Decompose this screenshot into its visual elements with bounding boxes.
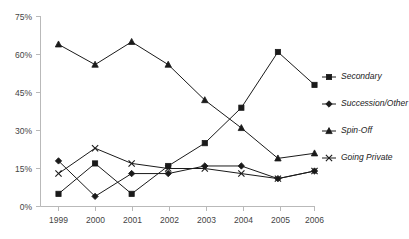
x-tick-label: 2002 — [160, 215, 179, 225]
legend-label: Going Private — [341, 152, 393, 162]
chart-container: 75% 60% 45% 30% 15% 0% 1999 2000 2001 20… — [0, 0, 409, 239]
data-point-triangle — [55, 41, 61, 47]
data-point-square — [326, 74, 331, 79]
data-point-x — [92, 145, 98, 151]
y-tick-label: 45% — [15, 88, 32, 98]
data-point-triangle — [165, 61, 171, 67]
legend-label: Spin-Off — [341, 125, 374, 135]
x-axis-tick-labels: 1999 2000 2001 2002 2003 2004 2005 2006 — [49, 215, 324, 225]
chart-legend: SecondarySuccession/OtherSpin-OffGoing P… — [322, 71, 409, 162]
x-tick-label: 2001 — [123, 215, 142, 225]
y-tick-label: 75% — [15, 12, 32, 22]
data-point-triangle — [238, 125, 244, 131]
line-chart: 75% 60% 45% 30% 15% 0% 1999 2000 2001 20… — [0, 0, 409, 239]
series-layer — [55, 38, 317, 199]
x-tick-label: 2006 — [305, 215, 324, 225]
legend-item-spin-off: Spin-Off — [322, 125, 374, 135]
series-secondary — [56, 49, 317, 196]
y-axis-tick-labels: 75% 60% 45% 30% 15% 0% — [15, 12, 32, 212]
data-point-triangle — [128, 38, 134, 44]
data-point-square — [129, 191, 134, 196]
data-point-triangle — [311, 150, 317, 156]
series-spin-off — [55, 38, 317, 161]
legend-item-secondary: Secondary — [322, 71, 382, 81]
x-tick-label: 2003 — [197, 215, 216, 225]
y-tick-label: 30% — [15, 126, 32, 136]
data-point-square — [92, 161, 97, 166]
x-tick-label: 2005 — [271, 215, 290, 225]
y-tick-label: 60% — [15, 50, 32, 60]
data-point-triangle — [92, 61, 98, 67]
x-axis-ticks — [59, 207, 315, 212]
data-point-diamond — [128, 170, 134, 176]
data-point-square — [275, 49, 280, 54]
x-tick-label: 2000 — [86, 215, 105, 225]
data-point-square — [239, 105, 244, 110]
data-point-square — [56, 191, 61, 196]
data-point-x — [55, 170, 61, 176]
data-point-square — [202, 141, 207, 146]
legend-item-succession-other: Succession/Other — [322, 98, 409, 108]
y-tick-label: 0% — [20, 202, 33, 212]
data-point-diamond — [326, 101, 332, 107]
legend-label: Succession/Other — [341, 98, 409, 108]
data-point-diamond — [238, 163, 244, 169]
legend-item-going-private: Going Private — [322, 152, 393, 162]
y-tick-label: 15% — [15, 164, 32, 174]
legend-label: Secondary — [341, 71, 382, 81]
data-point-square — [312, 82, 317, 87]
x-tick-label: 2004 — [234, 215, 253, 225]
y-axis-ticks — [36, 17, 41, 207]
x-tick-label: 1999 — [49, 215, 68, 225]
